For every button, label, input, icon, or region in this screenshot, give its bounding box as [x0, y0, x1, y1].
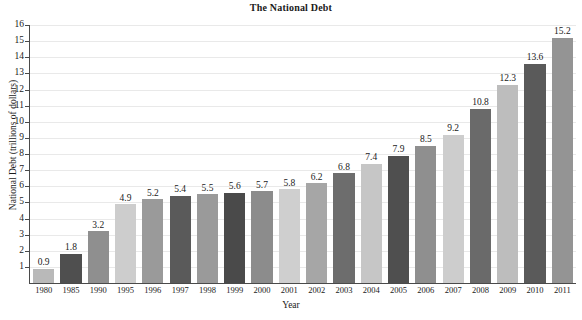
bar-value-label: 5.8	[283, 179, 295, 189]
x-axis-tick-label: 1995	[112, 286, 139, 295]
x-axis-tick-label: 2008	[467, 286, 494, 295]
bar: 5.8	[279, 189, 300, 283]
bar: 5.5	[197, 194, 218, 283]
gridline	[30, 90, 576, 91]
chart-page: The National Debt National Debt (trillio…	[0, 0, 582, 320]
y-axis-tick	[25, 73, 29, 74]
x-axis-tick-label: 1998	[194, 286, 221, 295]
x-axis-line	[29, 283, 576, 284]
bar: 10.8	[470, 109, 491, 283]
bar-value-label: 12.3	[499, 74, 516, 84]
bar: 3.2	[88, 231, 109, 283]
y-axis-tick	[25, 90, 29, 91]
chart-title: The National Debt	[0, 2, 582, 13]
y-axis-tick-label: 16	[2, 20, 24, 30]
y-axis-tick	[25, 202, 29, 203]
y-axis-line	[29, 25, 30, 284]
y-axis-tick-label: 10	[2, 117, 24, 127]
bar-value-label: 6.8	[338, 163, 350, 173]
gridline	[30, 73, 576, 74]
y-axis-tick	[25, 154, 29, 155]
x-axis-tick-label: 2010	[521, 286, 548, 295]
y-axis-tick-label: 1	[2, 262, 24, 272]
y-axis-tick	[25, 106, 29, 107]
bar-value-label: 5.5	[202, 184, 214, 194]
x-axis-tick-label: 1980	[30, 286, 57, 295]
x-axis-tick-label: 1999	[221, 286, 248, 295]
y-axis-tick	[25, 57, 29, 58]
y-axis-tick-label: 3	[2, 230, 24, 240]
x-axis-tick-label: 1990	[85, 286, 112, 295]
y-axis-tick-label: 9	[2, 133, 24, 143]
bar: 5.7	[251, 191, 272, 283]
gridline	[30, 25, 576, 26]
plot-area: 0.91.83.24.95.25.45.55.65.75.86.26.87.47…	[30, 25, 576, 283]
y-axis-tick-label: 11	[2, 101, 24, 111]
x-axis-tick-label: 1985	[57, 286, 84, 295]
x-axis-tick-label: 2009	[494, 286, 521, 295]
bar-value-label: 7.4	[365, 153, 377, 163]
bar-value-label: 13.6	[527, 53, 544, 63]
y-axis-tick	[25, 25, 29, 26]
gridline	[30, 154, 576, 155]
y-axis-tick-label: 12	[2, 85, 24, 95]
bar-value-label: 5.4	[174, 185, 186, 195]
bar-value-label: 6.2	[311, 173, 323, 183]
bar: 15.2	[552, 38, 573, 283]
x-axis-tick-label: 1996	[139, 286, 166, 295]
gridline	[30, 57, 576, 58]
x-axis-tick-label: 2002	[303, 286, 330, 295]
bar: 4.9	[115, 204, 136, 283]
gridline	[30, 219, 576, 220]
bar: 6.2	[306, 183, 327, 283]
y-axis-tick-label: 15	[2, 36, 24, 46]
gridline	[30, 106, 576, 107]
x-axis-tick-label: 1997	[167, 286, 194, 295]
gridline	[30, 186, 576, 187]
gridline	[30, 122, 576, 123]
gridline	[30, 235, 576, 236]
y-axis-tick-label: 13	[2, 68, 24, 78]
gridline	[30, 170, 576, 171]
bar: 0.9	[33, 269, 54, 284]
gridline	[30, 138, 576, 139]
bar-value-label: 5.7	[256, 181, 268, 191]
bar-value-label: 8.5	[420, 135, 432, 145]
y-axis-tick-label: 7	[2, 165, 24, 175]
y-axis-tick	[25, 41, 29, 42]
y-axis-tick	[25, 186, 29, 187]
bar-value-label: 1.8	[65, 243, 77, 253]
x-axis-tick-label: 2000	[248, 286, 275, 295]
gridline	[30, 202, 576, 203]
gridline	[30, 251, 576, 252]
x-axis-title: Year	[0, 300, 582, 310]
bar-value-label: 7.9	[393, 145, 405, 155]
bar-value-label: 5.6	[229, 182, 241, 192]
bar: 5.6	[224, 193, 245, 283]
bar: 13.6	[524, 64, 545, 283]
x-axis-tick-label: 2007	[440, 286, 467, 295]
bar: 7.9	[388, 156, 409, 283]
y-axis-tick-label: 5	[2, 197, 24, 207]
x-axis-tick-label: 2011	[549, 286, 576, 295]
y-axis-tick	[25, 235, 29, 236]
bar: 1.8	[60, 254, 81, 283]
bar: 9.2	[443, 135, 464, 283]
y-axis-tick-label: 4	[2, 214, 24, 224]
bar-value-label: 15.2	[554, 27, 571, 37]
bar-value-label: 5.2	[147, 189, 159, 199]
gridline	[30, 267, 576, 268]
bar: 12.3	[497, 85, 518, 283]
y-axis-tick	[25, 170, 29, 171]
y-axis-tick	[25, 122, 29, 123]
y-axis-tick	[25, 251, 29, 252]
bar: 7.4	[361, 164, 382, 283]
bar: 5.2	[142, 199, 163, 283]
bar-value-label: 10.8	[472, 98, 489, 108]
bar: 8.5	[415, 146, 436, 283]
y-axis-tick-label: 2	[2, 246, 24, 256]
y-axis-tick	[25, 219, 29, 220]
x-axis-tick-label: 2001	[276, 286, 303, 295]
bar-value-label: 0.9	[38, 258, 50, 268]
bar-value-label: 4.9	[120, 194, 132, 204]
